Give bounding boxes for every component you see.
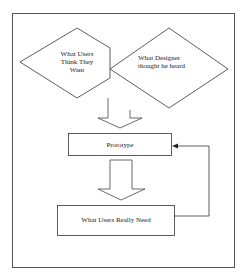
really-need-label: What Users Really Need (57, 216, 175, 224)
feedback-arrowhead-icon (172, 144, 178, 149)
feedback-line (174, 146, 209, 216)
label-line: Want (52, 66, 102, 74)
merge-arrow (98, 98, 142, 128)
label-line: What Designer (138, 54, 202, 62)
prototype-label: Prototype (68, 141, 172, 149)
flowchart-canvas (0, 0, 247, 279)
label-line: thought he heard (138, 62, 202, 70)
label-line: Think They (52, 58, 102, 66)
users-want-label: What Users Think They Want (52, 50, 102, 74)
down-arrow (98, 160, 145, 200)
label-line: What Users (52, 50, 102, 58)
designer-heard-label: What Designer thought he heard (138, 54, 202, 70)
